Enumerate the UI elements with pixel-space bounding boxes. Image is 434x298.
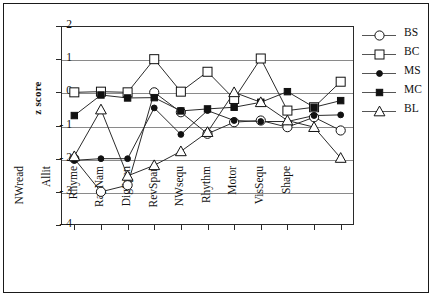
series-line bbox=[74, 59, 340, 111]
data-point bbox=[311, 104, 317, 110]
data-point bbox=[231, 104, 237, 110]
legend-marker-glyph bbox=[375, 50, 384, 59]
data-point bbox=[229, 87, 240, 97]
x-tick-label: NWread bbox=[13, 166, 25, 232]
data-point bbox=[338, 112, 344, 118]
legend-label: BS bbox=[404, 26, 418, 38]
legend-label: MS bbox=[404, 64, 421, 76]
legend-item-bs[interactable]: BS bbox=[362, 26, 428, 45]
legend-marker-glyph bbox=[377, 71, 383, 77]
data-point bbox=[125, 156, 131, 162]
data-point bbox=[178, 108, 184, 114]
data-point bbox=[231, 118, 237, 124]
series-layer bbox=[61, 26, 354, 225]
series-markers-bs bbox=[70, 88, 346, 197]
data-point bbox=[178, 132, 184, 138]
data-point bbox=[96, 187, 105, 196]
legend-marker-glyph bbox=[375, 31, 384, 40]
data-point bbox=[311, 113, 317, 119]
data-point bbox=[256, 54, 265, 63]
x-tick-mark bbox=[314, 225, 315, 230]
data-point bbox=[203, 67, 212, 76]
x-tick-label: Allit bbox=[40, 166, 52, 232]
data-point bbox=[282, 115, 293, 125]
legend-marker-open-square-icon bbox=[373, 48, 386, 61]
data-point bbox=[283, 106, 292, 115]
legend: BSBCMSMCBL bbox=[362, 26, 428, 121]
data-point bbox=[258, 119, 264, 125]
data-point bbox=[71, 112, 77, 118]
data-point bbox=[151, 105, 157, 111]
legend-item-bl[interactable]: BL bbox=[362, 102, 428, 121]
legend-marker-open-triangle-icon bbox=[373, 105, 386, 118]
data-point bbox=[150, 55, 159, 64]
data-point bbox=[255, 97, 266, 107]
data-point bbox=[176, 87, 185, 96]
y-tick-mark bbox=[56, 225, 61, 226]
figure-frame: z score 210- 1- 2- 3- 4 NWreadAllitRhyme… bbox=[3, 3, 429, 293]
data-point bbox=[124, 95, 130, 101]
data-point bbox=[337, 97, 343, 103]
series-bc bbox=[74, 59, 340, 111]
data-point bbox=[96, 104, 107, 114]
legend-marker-glyph bbox=[376, 89, 382, 95]
data-point bbox=[98, 156, 104, 162]
legend-label: BL bbox=[404, 102, 419, 114]
data-point bbox=[123, 181, 132, 190]
legend-marker-glyph bbox=[374, 106, 385, 116]
legend-marker-open-circle-icon bbox=[373, 29, 386, 42]
data-point bbox=[151, 94, 157, 100]
legend-item-bc[interactable]: BC bbox=[362, 45, 428, 64]
data-point bbox=[204, 106, 210, 112]
legend-item-mc[interactable]: MC bbox=[362, 83, 428, 102]
legend-marker-filled-square-icon bbox=[373, 86, 386, 99]
data-point bbox=[70, 88, 79, 97]
legend-label: BC bbox=[404, 45, 419, 57]
legend-marker-filled-circle-icon bbox=[373, 67, 386, 80]
data-point bbox=[175, 146, 186, 156]
series-markers-mc bbox=[71, 88, 344, 118]
data-point bbox=[336, 126, 345, 135]
legend-item-ms[interactable]: MS bbox=[362, 64, 428, 83]
data-point bbox=[149, 160, 160, 170]
data-point bbox=[98, 92, 104, 98]
data-point bbox=[284, 88, 290, 94]
x-tick-mark bbox=[341, 225, 342, 230]
data-point bbox=[336, 77, 345, 86]
legend-label: MC bbox=[404, 83, 422, 95]
